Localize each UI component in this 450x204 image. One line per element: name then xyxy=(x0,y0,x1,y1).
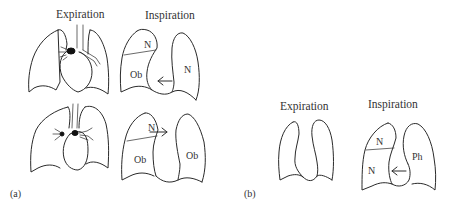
region-label: N xyxy=(376,136,383,147)
title-inspiration-b: Inspiration xyxy=(368,98,418,110)
region-label: Ob xyxy=(134,154,146,165)
region-label: Ph xyxy=(412,151,423,162)
title-inspiration-a: Inspiration xyxy=(145,9,195,21)
region-label: N xyxy=(368,165,375,176)
title-expiration-b: Expiration xyxy=(280,100,329,112)
lungs-expiration-a2 xyxy=(31,104,109,172)
lungs-expiration-a1 xyxy=(29,25,109,94)
lungs-inspiration-b xyxy=(362,123,436,190)
lungs-expiration-b xyxy=(279,120,334,181)
region-label: Ob xyxy=(186,150,198,161)
region-label: N xyxy=(144,39,151,50)
region-label: Ob xyxy=(130,69,142,80)
panel-label-a: (a) xyxy=(10,188,21,199)
title-expiration-a: Expiration xyxy=(56,8,105,20)
panel-label-b: (b) xyxy=(244,188,256,199)
lungs-inspiration-a2 xyxy=(122,113,206,182)
region-label: N xyxy=(148,122,155,133)
region-label: N xyxy=(184,64,191,75)
